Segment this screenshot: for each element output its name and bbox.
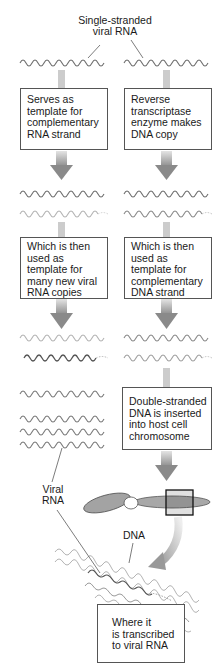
connector-bar <box>58 222 65 237</box>
curved-arrow-zoom <box>148 517 179 570</box>
rna-strand-right-top <box>124 60 208 66</box>
dna-label-text: DNA <box>123 529 145 541</box>
rna-duplex-left <box>20 191 108 217</box>
box-text-line: template for <box>27 264 101 276</box>
box-text-line: Reverse <box>131 94 205 106</box>
step-box-right-1: Reverse transcriptase enzyme makes DNA c… <box>124 88 212 150</box>
connector-bar <box>163 368 170 387</box>
insertion-highlight-box <box>166 490 193 515</box>
viral-rna-pointer-upper <box>52 448 62 482</box>
viral-rna-label: Viral RNA <box>38 484 68 506</box>
viral-rna-label-line-2: RNA <box>38 495 68 506</box>
down-arrow-right-2 <box>155 299 178 329</box>
connector-bar <box>163 70 170 88</box>
down-arrow-right-3 <box>155 451 178 481</box>
dna-pointer <box>129 543 133 563</box>
dna-duplex-right <box>124 335 212 361</box>
title-line-2: viral RNA <box>70 26 160 37</box>
box-text-line: DNA strand <box>131 287 205 299</box>
step-box-right-3: Double-stranded DNA is inserted into hos… <box>122 387 212 450</box>
down-arrow-right-1 <box>155 151 178 180</box>
connector-bar <box>163 222 170 237</box>
box-text-line: Where it <box>112 617 184 629</box>
box-text-line: enzyme makes <box>131 117 205 129</box>
step-box-left-1: Serves as template for complementary RNA… <box>20 88 108 150</box>
box-text-line: DNA copy <box>131 129 205 141</box>
step-box-right-2: Which is then used as template for compl… <box>124 237 212 299</box>
viral-rna-copies <box>20 391 104 448</box>
box-text-line: Double-stranded <box>129 396 205 408</box>
title-pointer-lines <box>88 40 143 58</box>
final-step-box: Where it is transcribed to viral RNA <box>97 604 185 663</box>
down-arrow-left-2 <box>50 299 73 329</box>
down-arrow-left-1 <box>50 151 73 180</box>
box-text-line: chromosome <box>129 431 205 443</box>
host-chromosome <box>82 489 210 517</box>
box-text-line: complementary <box>27 117 101 129</box>
box-text-line: RNA strand <box>27 129 101 141</box>
box-text-line: into host cell <box>129 419 205 431</box>
connector-bar <box>58 70 65 88</box>
rna-strand-left-top <box>20 60 104 66</box>
box-text-line: template for <box>131 264 205 276</box>
title-label: Single-stranded viral RNA <box>70 15 160 37</box>
rna-dna-hybrid-right <box>124 191 212 217</box>
box-text-line: Which is then <box>27 241 101 253</box>
box-text-line: RNA copies <box>27 287 101 299</box>
box-text-line: to viral RNA <box>112 640 184 652</box>
box-text-line: Serves as <box>27 94 101 106</box>
dna-label: DNA <box>120 530 148 541</box>
rna-duplex-left-2 <box>20 335 108 361</box>
step-box-left-2: Which is then used as template for many … <box>20 237 108 299</box>
box-text-line: Which is then <box>131 241 205 253</box>
